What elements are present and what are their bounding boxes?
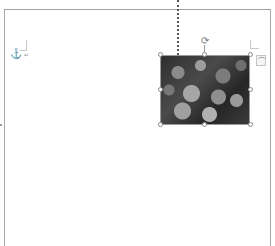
- alignment-guide-line: [177, 0, 179, 55]
- resize-handle-middle-left[interactable]: [158, 87, 163, 92]
- selected-picture[interactable]: [160, 55, 250, 125]
- resize-handle-bottom-left[interactable]: [158, 122, 163, 127]
- ruler-marker: [0, 124, 2, 126]
- resize-handle-top-center[interactable]: [202, 52, 207, 57]
- layout-options-button[interactable]: ⌒: [256, 55, 266, 66]
- layout-options-icon: ⌒: [258, 57, 265, 64]
- resize-handle-bottom-center[interactable]: [202, 122, 207, 127]
- document-page[interactable]: [4, 9, 271, 246]
- anchor-icon[interactable]: ⚓: [10, 48, 20, 60]
- margin-corner-top-right: [250, 40, 259, 49]
- resize-handle-top-left[interactable]: [158, 52, 163, 57]
- paragraph-mark: ↵: [24, 53, 28, 57]
- resize-handle-bottom-right[interactable]: [248, 122, 253, 127]
- resize-handle-middle-right[interactable]: [248, 87, 253, 92]
- rotate-icon[interactable]: ⟳: [200, 36, 210, 46]
- document-canvas: ⚓ ↵ ⟳ ⌒: [0, 0, 275, 246]
- resize-handle-top-right[interactable]: [248, 52, 253, 57]
